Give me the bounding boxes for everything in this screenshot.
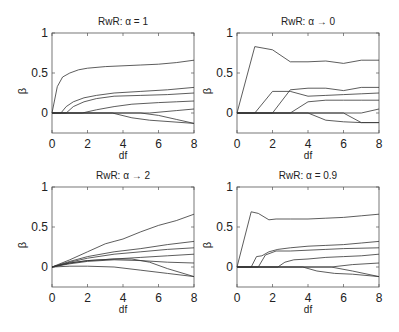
y-tick-label: 0.5 — [216, 220, 233, 234]
panel-title: RwR: α → 0 — [281, 16, 336, 27]
y-axis-label: β — [16, 88, 28, 94]
coefficient-path — [237, 47, 379, 113]
y-tick-label: 1 — [226, 26, 233, 40]
x-axis-label: df — [304, 150, 313, 161]
figure: RwR: α = 1 df β 0246800.51 RwR: α → 0 df… — [0, 0, 399, 332]
axes-box — [52, 33, 194, 133]
y-tick-label: 0.5 — [31, 66, 48, 80]
y-tick-label: 0.5 — [216, 66, 233, 80]
coefficient-path — [237, 100, 379, 113]
axes-box — [52, 187, 194, 287]
x-tick-label: 0 — [49, 137, 56, 151]
x-tick-label: 8 — [376, 137, 383, 151]
axes-box — [237, 33, 379, 133]
x-tick-label: 6 — [340, 137, 347, 151]
x-tick-label: 4 — [305, 291, 312, 305]
y-tick-label: 1 — [41, 180, 48, 194]
y-tick-label: 0 — [226, 260, 233, 274]
y-tick-label: 1 — [41, 26, 48, 40]
y-axis-label: β — [201, 88, 213, 94]
panel-title: RwR: α → 2 — [96, 170, 151, 181]
x-axis-label: df — [304, 304, 313, 315]
x-tick-label: 4 — [120, 291, 127, 305]
x-tick-label: 8 — [376, 291, 383, 305]
x-tick-label: 6 — [340, 291, 347, 305]
panel-alpha-to-0: RwR: α → 0 df β 0246800.51 — [201, 16, 383, 161]
x-tick-label: 8 — [191, 137, 198, 151]
x-tick-label: 4 — [120, 137, 127, 151]
x-tick-label: 4 — [305, 137, 312, 151]
coefficient-path — [52, 87, 194, 113]
panel-alpha-1: RwR: α = 1 df β 0246800.51 — [16, 16, 198, 161]
y-axis-label: β — [16, 242, 28, 248]
x-tick-label: 0 — [49, 291, 56, 305]
coefficient-path — [237, 241, 379, 267]
coefficient-path — [52, 93, 194, 113]
x-axis-label: df — [119, 150, 128, 161]
panel-title: RwR: α = 1 — [98, 16, 148, 27]
y-tick-label: 1 — [226, 180, 233, 194]
y-tick-label: 0 — [41, 260, 48, 274]
x-tick-label: 8 — [191, 291, 198, 305]
coefficient-path — [52, 266, 194, 276]
x-axis-label: df — [119, 304, 128, 315]
x-tick-label: 2 — [84, 291, 91, 305]
coefficient-path — [52, 109, 194, 113]
y-tick-label: 0 — [41, 106, 48, 120]
x-tick-label: 0 — [234, 137, 241, 151]
panel-alpha-to-2: RwR: α → 2 df β 0246800.51 — [16, 170, 198, 315]
x-tick-label: 2 — [269, 137, 276, 151]
x-tick-label: 2 — [269, 291, 276, 305]
coefficient-path — [237, 109, 379, 113]
y-tick-label: 0 — [226, 106, 233, 120]
x-tick-label: 0 — [234, 291, 241, 305]
x-tick-label: 6 — [155, 137, 162, 151]
x-tick-label: 2 — [84, 137, 91, 151]
coefficient-path — [237, 113, 379, 123]
coefficient-path — [237, 113, 379, 123]
panel-alpha-0-9: RwR: α = 0.9 df β 0246800.51 — [201, 170, 383, 315]
x-tick-label: 6 — [155, 291, 162, 305]
panel-title: RwR: α = 0.9 — [279, 170, 338, 181]
y-tick-label: 0.5 — [31, 220, 48, 234]
y-axis-label: β — [201, 242, 213, 248]
